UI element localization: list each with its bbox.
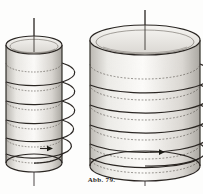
right-cylinder [90,10,203,186]
figure-caption: Abb. 79. [0,176,203,184]
cylinders-diagram [0,0,203,194]
left-cylinder [6,18,75,186]
figure-root: Abb. 79. [0,0,203,194]
